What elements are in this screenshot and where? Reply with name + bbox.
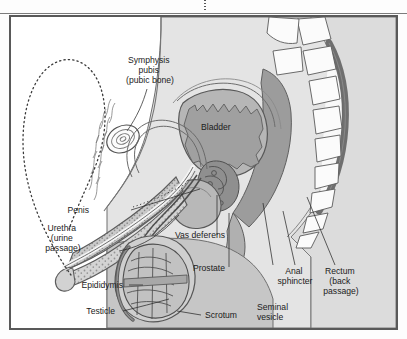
figure-stage: Symphysis pubis (pubic bone) Bladder Pen… <box>0 0 407 339</box>
label-scrotum: Scrotum <box>205 310 237 320</box>
anatomy-diagram: Symphysis pubis (pubic bone) Bladder Pen… <box>11 17 396 328</box>
structure-testicle <box>123 244 189 319</box>
structure-glans <box>55 267 75 291</box>
label-penis: Penis <box>68 205 90 215</box>
label-prostate: Prostate <box>193 263 225 273</box>
label-testicle: Testicle <box>86 306 115 316</box>
label-vas-deferens: Vas deferens <box>175 230 225 240</box>
structure-pubic-bone <box>102 120 144 159</box>
label-bladder: Bladder <box>201 122 231 132</box>
page-rule-line <box>0 13 407 14</box>
label-epididymis: Epididymis <box>81 280 123 290</box>
label-urethra: Urethra (urine passage) <box>45 223 80 253</box>
page-crop-mark <box>204 0 206 12</box>
diagram-frame: Symphysis pubis (pubic bone) Bladder Pen… <box>9 15 398 330</box>
